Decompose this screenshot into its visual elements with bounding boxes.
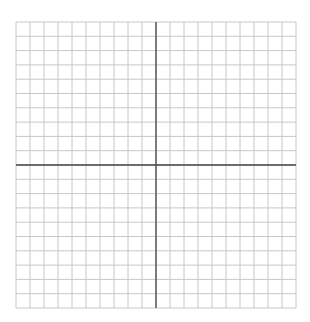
coordinate-grid — [0, 0, 310, 322]
